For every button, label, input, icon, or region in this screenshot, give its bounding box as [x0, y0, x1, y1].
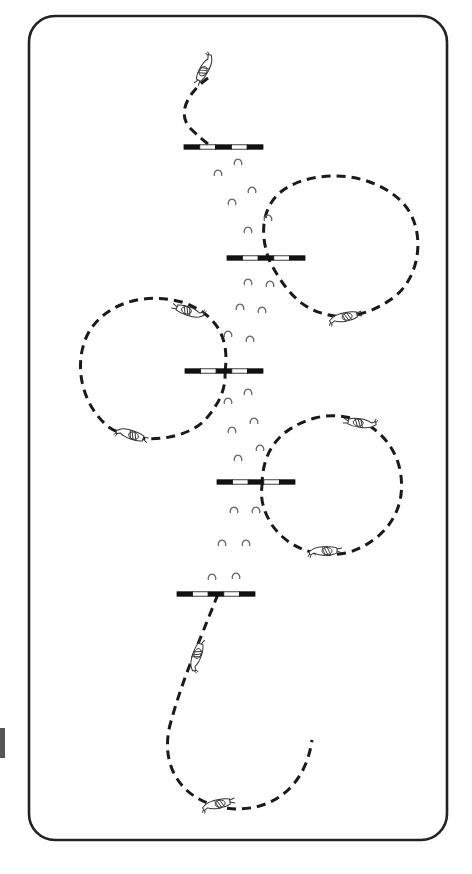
pole-4	[217, 480, 295, 484]
entry-path	[184, 78, 212, 147]
gymkhana-pole-pattern-diagram	[0, 0, 472, 874]
hoofprint-icon	[244, 279, 252, 285]
hoofprint-icon	[228, 199, 236, 205]
hoofprint-icon	[244, 227, 252, 233]
hoofprint-icon	[264, 215, 272, 221]
horse-rider-finish-icon	[201, 797, 236, 814]
pole-2	[227, 256, 305, 260]
pole-5	[177, 592, 255, 596]
edge-tab-marker	[0, 728, 5, 758]
pole-3	[185, 369, 263, 373]
exit-path	[167, 594, 312, 809]
arena-frame	[29, 16, 447, 840]
horse-rider-icon	[113, 425, 149, 447]
hoofprint-icon	[232, 573, 240, 579]
hoofprint-icon	[256, 445, 264, 451]
hoofprint-icon	[266, 281, 274, 287]
hoofprint-icon	[218, 540, 226, 546]
hoofprint-icon	[230, 507, 238, 513]
hoofprint-icon	[242, 540, 250, 546]
hoofprint-icon	[246, 336, 254, 342]
hoofprint-icon	[234, 159, 242, 165]
hoofprint-icon	[208, 574, 216, 580]
horse-rider-icon	[328, 310, 363, 327]
circle-right-2	[261, 416, 401, 555]
horse-riders	[113, 51, 378, 814]
hoofprint-icon	[258, 307, 266, 313]
pole-1	[184, 145, 263, 149]
ground-poles	[177, 145, 305, 596]
hoofprint-icon	[244, 389, 252, 395]
hoofprint-icon	[248, 187, 256, 193]
horse-rider-icon	[187, 638, 209, 674]
horse-rider-icon	[308, 547, 342, 558]
hoofprint-icon	[234, 455, 242, 461]
hoofprint-icon	[224, 398, 232, 404]
hoofprint-icon	[214, 170, 222, 176]
hoofprint-icon	[236, 304, 244, 310]
hoofprint-icon	[224, 331, 232, 337]
hoofprint-icon	[228, 427, 236, 433]
hoofprint-icon	[252, 507, 260, 513]
circle-right-1	[264, 176, 418, 316]
hoofprint-icon	[250, 418, 258, 424]
